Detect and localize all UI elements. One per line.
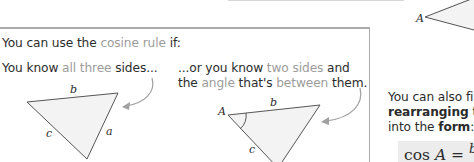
arrow-head-2 (321, 117, 329, 125)
triangle2-label-A: A (218, 104, 226, 119)
side-text-line3: into the form: (388, 120, 474, 135)
triangle2-label-b: b (270, 95, 277, 110)
triangle2-label-c: c (249, 142, 255, 157)
side-text-line1: You can also fir (388, 90, 474, 105)
triangle-two-sides-angle-diagram (0, 0, 474, 162)
arrow-curve-2 (326, 88, 361, 121)
formula-numerator-partial: b (469, 141, 474, 156)
side-text-line2: rearranging the (388, 105, 474, 120)
cosine-formula: cos A = b (404, 146, 474, 162)
